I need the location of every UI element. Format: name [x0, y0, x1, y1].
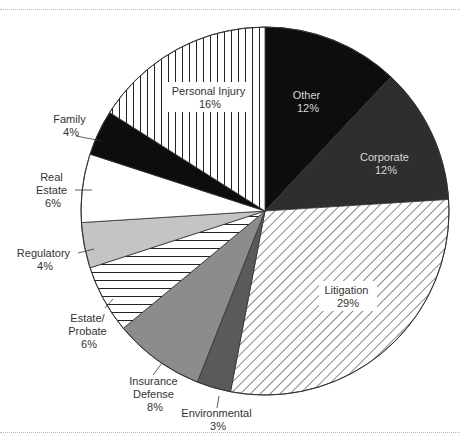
label-family: Family 4% — [53, 113, 88, 138]
label-environmental: Environmental 3% — [181, 407, 254, 432]
label-other: Other 12% — [293, 89, 324, 114]
label-insurance-defense: Insurance Defense 8% — [129, 375, 180, 413]
label-regulatory: Regulatory 4% — [17, 247, 73, 272]
label-real-estate: Real Estate 6% — [36, 171, 70, 209]
pie-slices — [81, 27, 449, 395]
pie-chart: Other 12% Corporate 12% Litigation 29% P… — [0, 0, 460, 442]
leader-insurance — [153, 363, 162, 375]
label-estate-probate: Estate/ Probate 6% — [68, 312, 110, 350]
